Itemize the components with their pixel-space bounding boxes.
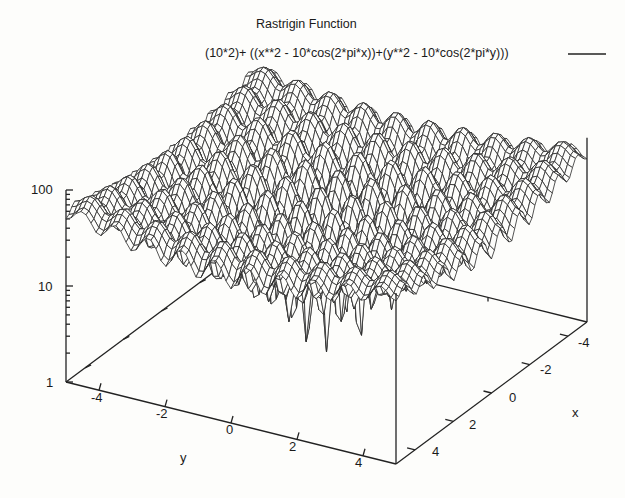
x-tick-neg4: -4 [578, 335, 590, 350]
x-axis-label: x [572, 405, 579, 420]
rastrigin-surface-mesh [66, 67, 587, 352]
chart-title: Rastrigin Function [256, 17, 357, 31]
x-tick-4: 4 [432, 444, 439, 459]
x-tick-2: 2 [469, 417, 476, 432]
x-tick-neg2: -2 [540, 362, 552, 377]
z-tick-1: 1 [46, 375, 53, 390]
y-tick-2: 2 [289, 439, 296, 454]
x-tick-0: 0 [509, 390, 516, 405]
y-tick-neg4: -4 [91, 390, 103, 405]
y-tick-0: 0 [226, 422, 233, 437]
y-axis-label: y [180, 450, 187, 465]
legend-entry: (10*2)+ ((x**2 - 10*cos(2*pi*x))+(y**2 -… [205, 46, 509, 60]
surface-plot [0, 0, 625, 498]
y-tick-neg2: -2 [156, 406, 168, 421]
z-tick-100: 100 [31, 182, 53, 197]
z-tick-10: 10 [38, 279, 52, 294]
y-tick-4: 4 [355, 455, 362, 470]
